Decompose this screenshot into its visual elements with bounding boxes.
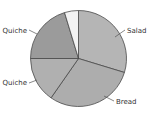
slice-label-bread: Bread [116,98,137,106]
slice-label-salad: Salad [127,27,146,35]
leader-line [29,30,37,34]
slice-label-quiche-upper: Quiche [3,27,27,35]
pie-chart: Salad Bread Quiche Quiche [0,0,149,114]
slice-label-quiche-lower: Quiche [3,79,27,87]
pie-slices [30,11,126,107]
leader-line [29,80,37,83]
